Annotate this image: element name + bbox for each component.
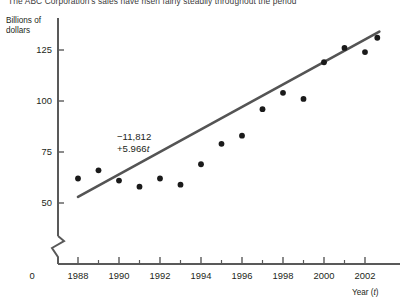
- data-point: [239, 133, 245, 139]
- data-point: [75, 176, 81, 182]
- data-point: [280, 90, 286, 96]
- regression-line-layer: [78, 32, 379, 197]
- y-tick-label: 100: [14, 95, 52, 106]
- data-points-layer: [75, 35, 380, 190]
- data-point: [198, 161, 204, 167]
- axes-layer: [52, 18, 400, 264]
- x-tick-label: 1996: [222, 270, 262, 281]
- data-point: [321, 59, 327, 65]
- x-tick-label: 1998: [263, 270, 303, 281]
- data-point: [137, 184, 143, 190]
- y-tick-label: 50: [14, 197, 52, 208]
- data-point: [116, 178, 122, 184]
- data-point: [178, 182, 184, 188]
- data-point: [342, 45, 348, 51]
- data-point: [374, 35, 380, 41]
- chart-screenshot: The ABC Corporation's sales have risen f…: [0, 0, 411, 307]
- x-tick-label: 2000: [304, 270, 344, 281]
- plot-canvas: [0, 0, 411, 307]
- data-point: [157, 176, 163, 182]
- data-point: [96, 167, 102, 173]
- x-tick-label: 1994: [181, 270, 221, 281]
- regression-line: [78, 32, 379, 197]
- x-tick-label: 1988: [58, 270, 98, 281]
- y-tick-label: 125: [14, 44, 52, 55]
- data-point: [260, 106, 266, 112]
- x-tick-label: 2002: [345, 270, 385, 281]
- y-tick-label: 75: [14, 146, 52, 157]
- y-axis-break-icon: [52, 236, 64, 264]
- x-tick-label: 1990: [99, 270, 139, 281]
- data-point: [362, 49, 368, 55]
- data-point: [301, 96, 307, 102]
- x-tick-label: 1992: [140, 270, 180, 281]
- data-point: [219, 141, 225, 147]
